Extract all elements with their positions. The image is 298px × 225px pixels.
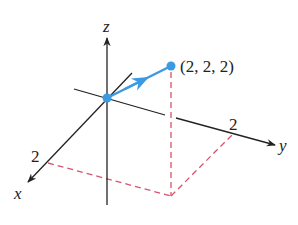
diagram-canvas: z y x 2 2 (2, 2, 2)	[0, 0, 298, 225]
x-axis	[28, 73, 132, 182]
projection-lines	[48, 72, 232, 196]
origin-point	[103, 94, 112, 103]
x-tick-label: 2	[31, 147, 40, 166]
y-axis-label: y	[277, 136, 287, 155]
vector-arrowhead	[125, 80, 143, 89]
z-axis-label: z	[102, 17, 110, 36]
coordinate-diagram: z y x 2 2 (2, 2, 2)	[0, 0, 298, 225]
y-projection-line	[171, 135, 232, 196]
x-axis-label: x	[13, 184, 22, 203]
x-projection-line	[48, 163, 171, 196]
y-tick-label: 2	[229, 115, 238, 134]
point-label: (2, 2, 2)	[180, 57, 234, 76]
point-2-2-2	[167, 62, 176, 71]
y-axis	[176, 118, 275, 145]
